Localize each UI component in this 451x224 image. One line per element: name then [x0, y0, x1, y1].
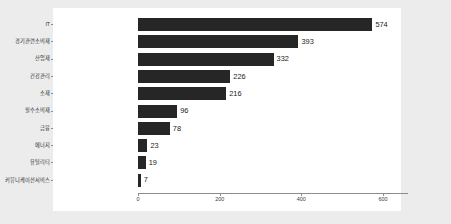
category-label: 산업재	[0, 56, 50, 61]
category-tick	[51, 93, 53, 94]
category-label: IT	[0, 22, 50, 27]
bar-row: 에너지23	[53, 138, 401, 153]
category-tick	[51, 162, 53, 163]
bar	[138, 35, 298, 48]
x-axis-tick-label: 200	[215, 197, 224, 202]
bar-row: 산업재332	[53, 52, 401, 67]
category-label: 금융	[0, 126, 50, 131]
bar-value-label: 332	[277, 55, 289, 62]
category-label: 건강관리	[0, 74, 50, 79]
bar-value-label: 216	[229, 90, 241, 97]
bar	[138, 87, 226, 100]
category-label: 유틸리티	[0, 160, 50, 165]
bar-row: 금융78	[53, 121, 401, 136]
category-label: 필수소비재	[0, 108, 50, 113]
bar-value-label: 23	[150, 142, 158, 149]
x-axis-line	[138, 193, 408, 194]
category-tick	[51, 111, 53, 112]
category-tick	[51, 59, 53, 60]
bar-row: IT574	[53, 17, 401, 32]
bar-row: 건강관리226	[53, 69, 401, 84]
x-axis-tick-label: 400	[297, 197, 306, 202]
plot-area: IT574경기관련소비재393산업재332건강관리226소재216필수소비재96…	[53, 8, 401, 211]
bar-value-label: 7	[144, 176, 148, 183]
bar	[138, 18, 372, 31]
bar-value-label: 574	[375, 21, 387, 28]
bar-row: 필수소비재96	[53, 104, 401, 119]
chart-panel: IT574경기관련소비재393산업재332건강관리226소재216필수소비재96…	[53, 8, 401, 211]
category-tick	[51, 145, 53, 146]
bar-row: 소재216	[53, 86, 401, 101]
bar-value-label: 393	[301, 38, 313, 45]
x-axis-tick-label: 0	[137, 197, 140, 202]
category-tick	[51, 76, 53, 77]
category-label: 소재	[0, 91, 50, 96]
category-tick	[51, 180, 53, 181]
category-label: 커뮤니케이션서비스	[0, 178, 50, 183]
bar-row: 유틸리티19	[53, 155, 401, 170]
bar	[138, 139, 147, 152]
category-tick	[51, 24, 53, 25]
bar-value-label: 226	[233, 73, 245, 80]
bar-value-label: 19	[149, 159, 157, 166]
category-tick	[51, 128, 53, 129]
bar	[138, 70, 230, 83]
category-tick	[51, 41, 53, 42]
bar-value-label: 96	[180, 107, 188, 114]
category-label: 경기관련소비재	[0, 39, 50, 44]
bar	[138, 122, 170, 135]
bar-row: 경기관련소비재393	[53, 34, 401, 49]
bar-value-label: 78	[173, 125, 181, 132]
bar	[138, 174, 141, 187]
bar-row: 커뮤니케이션서비스7	[53, 173, 401, 188]
x-axis-tick-label: 600	[379, 197, 388, 202]
bar	[138, 105, 177, 118]
bar	[138, 53, 274, 66]
category-label: 에너지	[0, 143, 50, 148]
bar	[138, 156, 146, 169]
